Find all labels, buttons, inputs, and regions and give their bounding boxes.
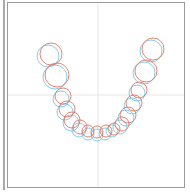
series-blue: [37, 40, 162, 141]
tooth-circle: [108, 123, 120, 135]
tooth-circle: [142, 38, 164, 60]
tooth-circle: [45, 63, 69, 87]
dental-arch-diagram: [0, 0, 190, 195]
circle-series-layer: [37, 38, 164, 141]
tooth-circle: [135, 60, 157, 82]
